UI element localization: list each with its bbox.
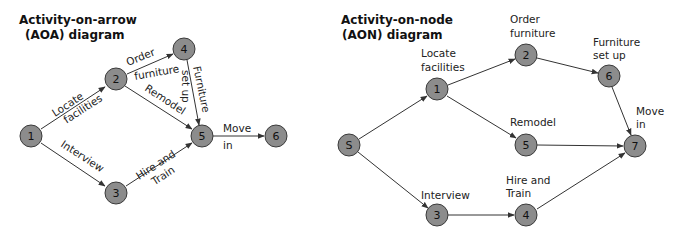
aoa-node-3: 3 (105, 182, 127, 204)
aon-caption-furniture: furniture (510, 27, 555, 39)
aon-node-s: S (338, 134, 360, 156)
aon-node-4: 4 (515, 204, 537, 226)
aoa-label-in: in (223, 139, 233, 151)
aoa-label-furniture: furniture (133, 62, 180, 82)
aoa-node-2: 2 (105, 68, 127, 90)
aoa-label-setup: set up (180, 70, 192, 103)
aon-edge-2-6 (537, 58, 598, 73)
svg-text:4: 4 (523, 209, 530, 222)
aoa-node-5: 5 (191, 125, 213, 147)
aon-diagram: Activity-on-node (AON) diagram Locate fa… (338, 13, 664, 226)
aoa-node-6: 6 (265, 125, 287, 147)
aon-caption-in: in (636, 118, 646, 130)
svg-text:2: 2 (113, 73, 120, 86)
svg-text:6: 6 (273, 130, 280, 143)
svg-text:3: 3 (113, 187, 120, 200)
svg-text:S: S (346, 139, 353, 152)
aon-node-6: 6 (598, 65, 620, 87)
aoa-label-order: Order (124, 45, 157, 68)
aon-edge-s-3 (358, 152, 428, 208)
aon-caption-remodel: Remodel (510, 116, 556, 128)
aon-node-3: 3 (426, 204, 448, 226)
aon-caption-locate: Locate (421, 47, 456, 59)
svg-text:5: 5 (523, 139, 530, 152)
svg-text:1: 1 (28, 130, 35, 143)
aon-edge-5-7 (537, 145, 623, 146)
aoa-label-furniture-setup: Furniture (191, 65, 213, 114)
aon-caption-hire-and: Hire and (506, 174, 550, 186)
aoa-diagram: Activity-on-arrow (AOA) diagram Locate f… (19, 13, 287, 204)
aon-caption-facilities: facilities (421, 61, 465, 73)
aoa-label-move: Move (223, 122, 251, 134)
svg-text:1: 1 (434, 83, 441, 96)
aon-node-5: 5 (515, 134, 537, 156)
aoa-label-interview: Interview (59, 138, 107, 175)
aon-node-2: 2 (515, 44, 537, 66)
svg-text:2: 2 (523, 49, 530, 62)
aon-node-7: 7 (624, 135, 646, 157)
aon-edge-6-7 (612, 87, 631, 135)
svg-text:4: 4 (181, 43, 188, 56)
aoa-node-4: 4 (173, 38, 195, 60)
aon-caption-furniture-setup: Furniture (593, 36, 640, 48)
aon-edge-s-1 (359, 96, 427, 139)
aon-caption-setup: set up (593, 49, 626, 61)
aon-caption-interview: Interview (421, 189, 470, 201)
aon-caption-order: Order (510, 13, 541, 25)
aon-title-line2: (AON) diagram (342, 28, 443, 42)
svg-text:6: 6 (606, 70, 613, 83)
aoa-title-line2: (AOA) diagram (25, 28, 125, 42)
aoa-node-1: 1 (20, 125, 42, 147)
aon-title-line1: Activity-on-node (341, 13, 453, 27)
svg-text:3: 3 (434, 209, 441, 222)
network-diagrams: Activity-on-arrow (AOA) diagram Locate f… (0, 0, 675, 242)
svg-text:7: 7 (632, 140, 639, 153)
aoa-title-line1: Activity-on-arrow (19, 13, 137, 27)
aon-caption-move: Move (636, 105, 664, 117)
svg-text:5: 5 (199, 130, 206, 143)
aon-node-1: 1 (426, 78, 448, 100)
aon-edge-1-5 (447, 96, 516, 138)
aon-caption-train: Train (505, 187, 531, 199)
